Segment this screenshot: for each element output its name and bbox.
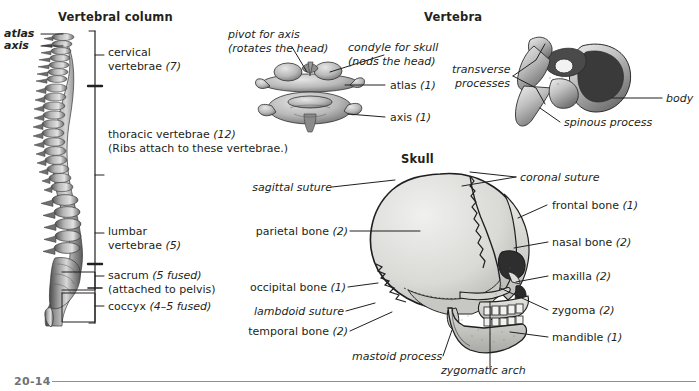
skull-illustration [352, 168, 552, 363]
vertebral-column-illustration [22, 28, 102, 328]
footer-rule [52, 381, 696, 382]
label-temporal-qty: (2) [332, 325, 348, 338]
label-sacrum-qty: (5 fused) [152, 269, 201, 282]
label-temporal-text: temporal bone [248, 325, 329, 338]
label-condyle-for-skull: condyle for skull (nods the head) [348, 41, 438, 68]
label-lumbar-line2: vertebrae [108, 239, 162, 252]
label-frontal-bone: frontal bone (1) [552, 199, 638, 212]
label-zygoma-text: zygoma [552, 304, 595, 317]
label-axis-text: axis [390, 111, 412, 124]
label-thoracic-line1: thoracic vertebrae [108, 128, 210, 141]
label-occipital-qty: (1) [330, 281, 346, 294]
label-atlas-text: atlas [390, 79, 417, 92]
label-coccyx-qty: (4–5 fused) [149, 300, 211, 313]
label-parietal-bone: parietal bone (2) [230, 225, 348, 238]
label-pivot-line1: pivot for axis [228, 28, 300, 41]
label-sacrum-note: (attached to pelvis) [108, 283, 216, 296]
label-nasal-text: nasal bone [552, 236, 612, 249]
label-cervical-line2: vertebrae [108, 60, 162, 73]
label-nasal-qty: (2) [616, 236, 632, 249]
label-mastoid-process: mastoid process [352, 350, 442, 363]
panel-title-skull: Skull [401, 152, 434, 166]
label-cervical-vertebrae: cervical vertebrae (7) [108, 46, 181, 73]
label-condyle-line1: condyle for skull [348, 41, 438, 54]
panel-title-vertebral-column: Vertebral column [58, 10, 173, 24]
label-sagittal-suture: sagittal suture [252, 181, 332, 194]
label-mandible-text: mandible [552, 331, 603, 344]
label-atlas-qty: (1) [420, 79, 436, 92]
label-occipital-text: occipital bone [250, 281, 327, 294]
label-mandible: mandible (1) [552, 331, 622, 344]
label-cervical-qty: (7) [165, 60, 181, 73]
label-transverse-processes: transverse processes [452, 63, 510, 90]
label-parietal-qty: (2) [332, 225, 348, 238]
label-occipital-bone: occipital bone (1) [228, 281, 346, 294]
label-zygoma: zygoma (2) [552, 304, 615, 317]
label-zygoma-qty: (2) [599, 304, 615, 317]
label-axis-qty: (1) [416, 111, 432, 124]
label-lumbar-line1: lumbar [108, 225, 147, 238]
label-pivot-for-axis: pivot for axis (rotates the head) [228, 28, 328, 55]
label-thoracic-vertebrae: thoracic vertebrae (12) (Ribs attach to … [108, 128, 288, 155]
label-nasal-bone: nasal bone (2) [552, 236, 631, 249]
label-coccyx-line1: coccyx [108, 300, 146, 313]
label-vertebral-axis: axis [4, 39, 29, 52]
label-transverse-line2: processes [455, 77, 510, 90]
label-thoracic-note: (Ribs attach to these vertebrae.) [108, 142, 288, 155]
label-maxilla-text: maxilla [552, 270, 592, 283]
figure-canvas: Vertebral column Vertebra Skull atlas ax… [0, 0, 699, 391]
label-coronal-suture: coronal suture [520, 171, 600, 184]
label-sacrum-line1: sacrum [108, 269, 149, 282]
label-coccyx: coccyx (4–5 fused) [108, 300, 211, 313]
label-thoracic-qty: (12) [213, 128, 236, 141]
label-axis-vertebra: axis (1) [390, 111, 431, 124]
label-mandible-qty: (1) [607, 331, 623, 344]
label-sacrum: sacrum (5 fused) (attached to pelvis) [108, 269, 216, 296]
label-pivot-line2: (rotates the head) [228, 42, 328, 55]
label-maxilla: maxilla (2) [552, 270, 611, 283]
label-zygomatic-arch: zygomatic arch [441, 364, 526, 377]
panel-title-vertebra: Vertebra [424, 10, 482, 24]
label-frontal-qty: (1) [622, 199, 638, 212]
label-temporal-bone: temporal bone (2) [228, 325, 348, 338]
label-atlas-vertebra: atlas (1) [390, 79, 436, 92]
label-condyle-line2: (nods the head) [348, 55, 436, 68]
label-maxilla-qty: (2) [595, 270, 611, 283]
label-transverse-line1: transverse [452, 63, 511, 76]
label-lumbar-qty: (5) [165, 239, 181, 252]
label-body: body [666, 92, 693, 105]
label-spinous-process: spinous process [564, 116, 652, 129]
figure-number: 20-14 [14, 375, 51, 388]
label-lambdoid-suture: lambdoid suture [252, 305, 344, 318]
label-parietal-text: parietal bone [256, 225, 329, 238]
label-cervical-line1: cervical [108, 46, 151, 59]
label-frontal-text: frontal bone [552, 199, 619, 212]
label-lumbar-vertebrae: lumbar vertebrae (5) [108, 225, 181, 252]
